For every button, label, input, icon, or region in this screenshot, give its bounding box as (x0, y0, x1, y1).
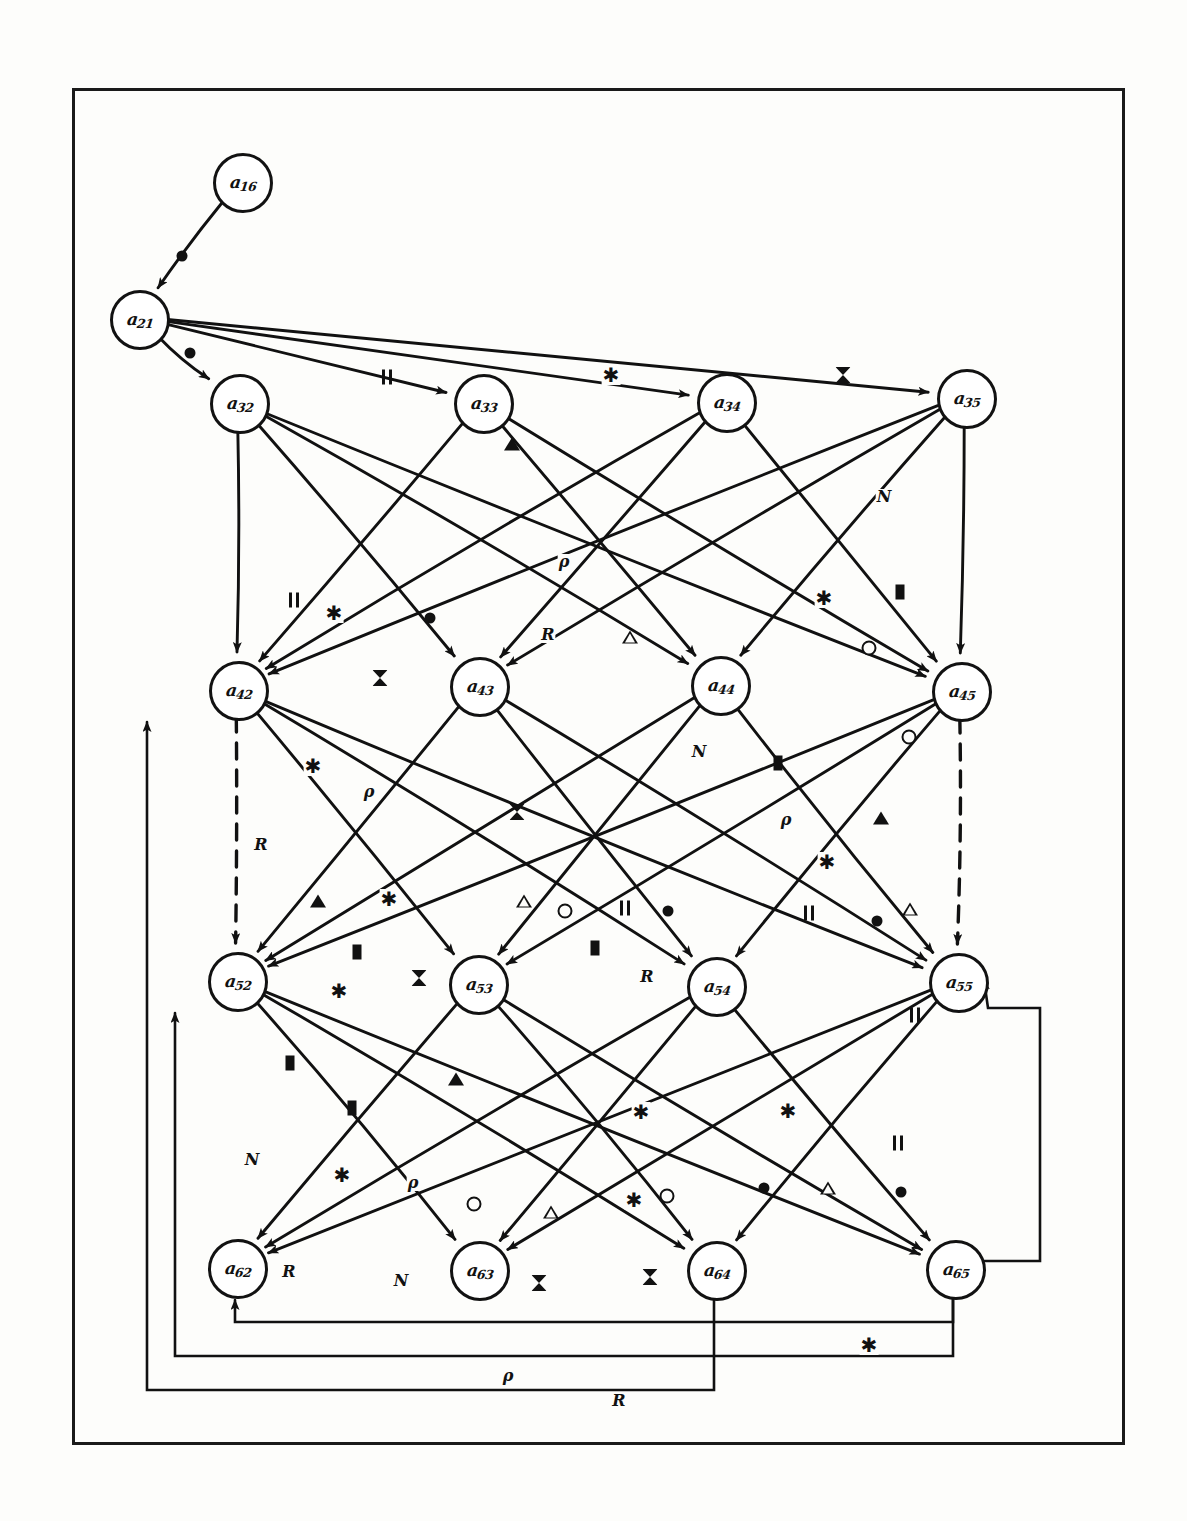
node-a65[interactable]: a65 (926, 1240, 986, 1300)
edge-marker-filled-rect (286, 1056, 295, 1071)
edge-marker-letter-r: R (253, 837, 268, 853)
node-label-subscript: 52 (234, 978, 252, 993)
edge-a52-to-a63 (254, 1000, 455, 1240)
node-a53[interactable]: a53 (449, 955, 509, 1015)
edge-marker-filled-circle (663, 906, 674, 917)
edge-a21-to-a35 (165, 319, 928, 392)
edge-a53-to-a65 (500, 997, 922, 1249)
node-label: a44 (706, 675, 736, 697)
node-label: a16 (228, 172, 258, 194)
node-label-subscript: 43 (476, 683, 494, 698)
node-label: a53 (464, 974, 494, 996)
edge-marker-double-bar (910, 1008, 922, 1023)
edge-marker-double-bar (804, 906, 816, 921)
edge-marker-letter-n: N (691, 744, 708, 760)
node-a33[interactable]: a33 (454, 374, 514, 434)
edge-a55-to-a64 (737, 1001, 938, 1240)
edge-marker-filled-triangle (873, 812, 889, 825)
edge-a44-to-a52 (266, 698, 694, 961)
node-label-subscript: 32 (236, 400, 254, 415)
node-a45[interactable]: a45 (932, 662, 992, 722)
edge-a33-to-a44 (499, 422, 695, 655)
node-label: a21 (125, 309, 155, 331)
edge-a34-to-a45 (742, 422, 937, 661)
edge-layer (0, 0, 1187, 1521)
node-a16[interactable]: a16 (213, 153, 273, 213)
node-label-subscript: 16 (239, 179, 257, 194)
node-a43[interactable]: a43 (450, 657, 510, 717)
node-a55[interactable]: a55 (929, 953, 989, 1013)
edge-marker-open-triangle (902, 903, 918, 916)
node-a52[interactable]: a52 (208, 952, 268, 1012)
node-a63[interactable]: a63 (450, 1241, 510, 1301)
edge-a33-to-a42 (260, 423, 464, 661)
edge-a53-to-a64 (495, 1003, 692, 1240)
node-label-subscript: 21 (136, 316, 154, 331)
node-label-subscript: 62 (234, 1265, 252, 1280)
node-label-subscript: 54 (713, 983, 731, 998)
edge-marker-filled-circle (759, 1183, 770, 1194)
edge-a54-to-a65 (732, 1006, 930, 1240)
node-label: a65 (941, 1259, 971, 1281)
edge-marker-asterisk: ✱ (815, 588, 834, 608)
edge-marker-asterisk: ✱ (325, 603, 344, 623)
edge-marker-asterisk: ✱ (818, 852, 837, 872)
edge-a42-to-a52 (236, 716, 237, 943)
node-label-subscript: 65 (952, 1266, 970, 1281)
edge-marker-asterisk: ✱ (380, 889, 399, 909)
edge-marker-asterisk: ✱ (304, 756, 323, 776)
node-label: a54 (702, 976, 732, 998)
edge-marker-rho: ρ (780, 812, 793, 828)
edge-marker-asterisk: ✱ (625, 1190, 644, 1210)
edge-marker-letter-r: R (611, 1393, 626, 1409)
edge-marker-filled-rect (348, 1101, 357, 1116)
node-a34[interactable]: a34 (697, 373, 757, 433)
edge-a44-to-a53 (499, 705, 701, 954)
edge-marker-open-triangle (622, 631, 638, 644)
node-label: a42 (224, 680, 254, 702)
edge-marker-open-triangle (543, 1206, 559, 1219)
edge-marker-asterisk: ✱ (860, 1335, 879, 1355)
edge-a43-to-a54 (494, 706, 691, 956)
node-label-subscript: 45 (958, 688, 976, 703)
edge-marker-double-bar (893, 1136, 905, 1151)
edge-marker-rho: ρ (363, 784, 376, 800)
node-a42[interactable]: a42 (209, 661, 269, 721)
edge-a43-to-a52 (258, 706, 459, 952)
edge-marker-letter-r: R (639, 969, 654, 985)
node-label-subscript: 55 (955, 979, 973, 994)
edge-marker-open-triangle (820, 1182, 836, 1195)
node-a32[interactable]: a32 (210, 374, 270, 434)
edge-marker-filled-rect (896, 585, 905, 600)
node-label-subscript: 53 (475, 981, 493, 996)
edge-marker-asterisk: ✱ (632, 1102, 651, 1122)
node-a44[interactable]: a44 (691, 656, 751, 716)
edge-marker-double-bar (382, 370, 394, 385)
node-a35[interactable]: a35 (937, 369, 997, 429)
edge-marker-filled-triangle (448, 1073, 464, 1086)
edge-marker-filled-triangle (310, 895, 326, 908)
node-a54[interactable]: a54 (687, 957, 747, 1017)
node-label: a35 (952, 388, 982, 410)
edge-marker-rho: ρ (558, 554, 571, 570)
node-a62[interactable]: a62 (208, 1239, 268, 1299)
edge-marker-open-circle (862, 641, 877, 656)
edge-marker-double-bar (289, 593, 301, 608)
edge-marker-open-triangle (516, 895, 532, 908)
edge-marker-filled-circle (896, 1187, 907, 1198)
edge-marker-double-bar (620, 901, 632, 916)
diagram-canvas: ✱Nρ✱✱RN✱ρρR✱✱R✱✱✱N✱ρ✱RN✱ρR a16a21a32a33a… (0, 0, 1187, 1521)
edge-marker-filled-rect (591, 941, 600, 956)
node-a21[interactable]: a21 (110, 290, 170, 350)
node-label-subscript: 35 (963, 395, 981, 410)
node-a64[interactable]: a64 (687, 1241, 747, 1301)
edge-marker-filled-rect (353, 945, 362, 960)
edge-a42-to-a53 (254, 709, 454, 953)
node-label: a33 (469, 393, 499, 415)
edge-marker-open-circle (660, 1189, 675, 1204)
edge-marker-filled-circle (177, 251, 188, 262)
edge-marker-asterisk: ✱ (602, 365, 621, 385)
node-label: a32 (225, 393, 255, 415)
node-label: a45 (947, 681, 977, 703)
edge-marker-asterisk: ✱ (330, 981, 349, 1001)
